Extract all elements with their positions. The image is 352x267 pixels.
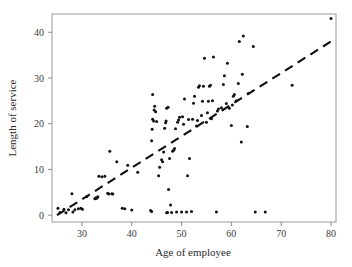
data-point xyxy=(115,160,118,163)
data-point xyxy=(178,116,181,119)
data-point xyxy=(252,45,255,48)
data-point xyxy=(186,174,189,177)
data-point xyxy=(330,17,333,20)
data-point xyxy=(151,93,154,96)
data-point xyxy=(223,74,226,77)
y-tick-label: 20 xyxy=(34,118,44,129)
x-tick-label: 50 xyxy=(177,228,187,239)
data-point xyxy=(254,210,257,213)
data-point xyxy=(100,175,103,178)
plot-frame xyxy=(52,14,336,222)
data-point xyxy=(170,211,173,214)
data-point xyxy=(130,209,133,212)
data-point xyxy=(64,211,67,214)
data-point xyxy=(230,124,233,127)
data-point xyxy=(174,127,177,130)
x-tick-label: 30 xyxy=(77,228,87,239)
data-point xyxy=(150,139,153,142)
data-point xyxy=(123,207,126,210)
data-point xyxy=(209,84,212,87)
scatter-plot-figure: 304050607080 010203040 Age of employee L… xyxy=(0,0,352,267)
data-point xyxy=(246,125,249,128)
data-point xyxy=(103,175,106,178)
data-point xyxy=(215,210,218,213)
data-point xyxy=(203,57,206,60)
y-tick-label: 10 xyxy=(34,164,44,175)
data-point xyxy=(181,115,184,118)
data-point xyxy=(154,110,157,113)
data-point xyxy=(168,157,171,160)
data-point xyxy=(211,99,214,102)
data-point xyxy=(111,193,114,196)
data-point xyxy=(196,119,199,122)
data-point xyxy=(70,192,73,195)
data-point xyxy=(198,84,201,87)
data-point xyxy=(153,105,156,108)
data-point xyxy=(161,160,164,163)
data-point xyxy=(264,210,267,213)
data-point xyxy=(220,106,223,109)
data-point xyxy=(222,83,225,86)
x-tick-label: 40 xyxy=(127,228,137,239)
data-point xyxy=(167,106,170,109)
data-point xyxy=(121,207,124,210)
data-point xyxy=(96,195,99,198)
plot-canvas: 304050607080 010203040 Age of employee L… xyxy=(0,0,352,267)
data-point xyxy=(166,211,169,214)
data-point xyxy=(242,34,245,37)
data-point xyxy=(205,121,208,124)
data-point xyxy=(192,102,195,105)
data-point xyxy=(158,166,161,169)
data-point xyxy=(225,102,228,105)
data-point xyxy=(175,210,178,213)
x-tick-label: 80 xyxy=(326,228,336,239)
data-point xyxy=(173,147,176,150)
data-point xyxy=(108,150,111,153)
data-point xyxy=(193,95,196,98)
data-point xyxy=(206,111,209,114)
data-point xyxy=(207,100,210,103)
x-tick-label: 70 xyxy=(276,228,286,239)
data-point xyxy=(187,118,190,121)
data-point xyxy=(126,164,129,167)
y-axis-ticks: 010203040 xyxy=(34,27,52,221)
data-point xyxy=(151,128,154,131)
data-point xyxy=(185,210,188,213)
data-point xyxy=(150,210,153,213)
data-point xyxy=(241,73,244,76)
data-point xyxy=(162,151,165,154)
regression-line xyxy=(57,41,331,215)
data-point xyxy=(217,108,220,111)
data-point xyxy=(231,103,234,106)
data-point xyxy=(202,85,205,88)
y-axis-title: Length of service xyxy=(6,79,18,156)
data-point xyxy=(155,120,158,123)
trend-line xyxy=(57,41,331,215)
data-point xyxy=(56,207,59,210)
data-point xyxy=(200,114,203,117)
data-point xyxy=(182,123,185,126)
data-point xyxy=(81,208,84,211)
data-point xyxy=(97,175,100,178)
data-point xyxy=(71,210,74,213)
data-point xyxy=(152,119,155,122)
data-points xyxy=(56,17,332,214)
data-point xyxy=(67,208,70,211)
x-axis-title: Age of employee xyxy=(155,246,231,258)
data-point xyxy=(190,210,193,213)
data-point xyxy=(237,82,240,85)
data-point xyxy=(238,40,241,43)
data-point xyxy=(157,174,160,177)
data-point xyxy=(169,204,172,207)
x-axis-ticks: 304050607080 xyxy=(77,222,336,239)
y-tick-label: 30 xyxy=(34,73,44,84)
data-point xyxy=(291,84,294,87)
y-tick-label: 40 xyxy=(34,27,44,38)
data-point xyxy=(240,141,243,144)
data-point xyxy=(107,193,110,196)
y-tick-label: 0 xyxy=(39,210,44,221)
data-point xyxy=(226,62,229,65)
data-point xyxy=(167,188,170,191)
x-tick-label: 60 xyxy=(226,228,236,239)
data-point xyxy=(177,119,180,122)
